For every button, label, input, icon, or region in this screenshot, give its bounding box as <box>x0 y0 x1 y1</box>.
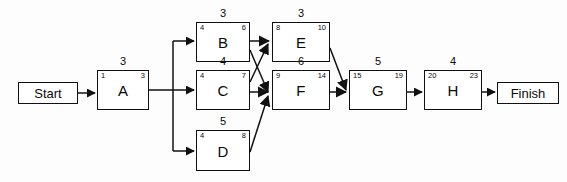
edge-e-g <box>330 48 346 90</box>
activity-label-d: D <box>197 143 249 158</box>
early-start-f: 9 <box>276 72 280 80</box>
finish-node-label: Finish <box>511 86 546 101</box>
finish-node[interactable]: Finish <box>497 82 559 104</box>
duration-h: 4 <box>424 56 482 67</box>
edge-d-f <box>250 96 268 152</box>
duration-g: 5 <box>349 56 407 67</box>
early-finish-a: 3 <box>141 72 145 80</box>
edge-b-f <box>250 50 268 92</box>
activity-label-h: H <box>425 83 481 98</box>
activity-label-g: G <box>350 83 406 98</box>
duration-c: 4 <box>196 56 250 67</box>
duration-e: 3 <box>272 8 330 19</box>
activity-node-g[interactable]: 15 19 G <box>349 70 407 110</box>
activity-label-f: F <box>273 83 329 98</box>
start-node[interactable]: Start <box>18 82 78 104</box>
activity-node-h[interactable]: 20 23 H <box>424 70 482 110</box>
activity-label-e: E <box>273 35 329 50</box>
network-diagram-canvas: Start Finish 3 1 3 A 3 4 6 B 4 4 7 C 5 4… <box>0 0 567 182</box>
early-finish-d: 8 <box>242 132 246 140</box>
early-start-b: 4 <box>200 24 204 32</box>
early-start-a: 1 <box>101 72 105 80</box>
activity-node-c[interactable]: 4 7 C <box>196 70 250 110</box>
activity-label-a: A <box>98 83 148 98</box>
early-start-d: 4 <box>200 132 204 140</box>
edge-c-e <box>250 44 268 82</box>
duration-d: 5 <box>196 116 250 127</box>
early-finish-e: 10 <box>318 24 326 32</box>
start-node-label: Start <box>34 86 61 101</box>
duration-a: 3 <box>97 56 149 67</box>
early-start-c: 4 <box>200 72 204 80</box>
early-finish-h: 23 <box>470 72 478 80</box>
activity-node-f[interactable]: 9 14 F <box>272 70 330 110</box>
duration-b: 3 <box>196 8 250 19</box>
early-finish-c: 7 <box>242 72 246 80</box>
early-start-h: 20 <box>428 72 436 80</box>
activity-label-c: C <box>197 83 249 98</box>
early-start-g: 15 <box>353 72 361 80</box>
early-finish-b: 6 <box>242 24 246 32</box>
duration-f: 6 <box>272 56 330 67</box>
early-finish-g: 19 <box>395 72 403 80</box>
activity-node-a[interactable]: 1 3 A <box>97 70 149 110</box>
activity-label-b: B <box>197 35 249 50</box>
early-finish-f: 14 <box>318 72 326 80</box>
early-start-e: 8 <box>276 24 280 32</box>
activity-node-d[interactable]: 4 8 D <box>196 130 250 171</box>
